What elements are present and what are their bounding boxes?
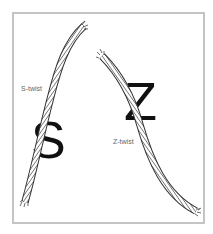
twist-diagram: S Z S-twist Z-twist [0, 0, 213, 234]
z-twist-label: Z-twist [113, 138, 134, 145]
s-twist-label: S-twist [21, 85, 42, 92]
